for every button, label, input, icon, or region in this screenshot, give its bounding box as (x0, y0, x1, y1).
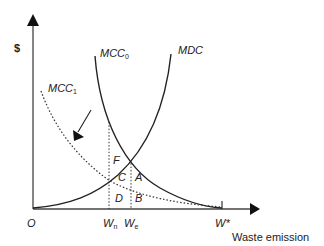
area-b-label: B (135, 193, 142, 204)
area-c-label: C (118, 172, 126, 183)
shift-arrow-line (78, 110, 91, 132)
mcc0-label: MCC0 (100, 48, 129, 60)
area-d-label: D (115, 193, 123, 204)
diagram-graphics (0, 0, 324, 246)
mdc-curve (33, 54, 171, 208)
y-axis-arrow-icon (27, 14, 39, 26)
y-axis-label: $ (14, 43, 20, 54)
area-f-label: F (113, 155, 120, 166)
mcc0-curve (95, 56, 222, 208)
mcc1-label: MCC1 (48, 83, 77, 95)
origin-label: O (27, 218, 36, 229)
mcc-mdc-diagram: $ MCC0 MDC MCC1 F C A D B O Wn We W* Was… (0, 0, 324, 246)
x-axis-arrow-icon (250, 203, 260, 215)
area-a-label: A (135, 172, 142, 183)
wstar-label: W* (215, 218, 230, 229)
mcc1-curve (41, 91, 222, 207)
mdc-label: MDC (178, 45, 203, 56)
we-label: We (124, 218, 138, 230)
wn-label: Wn (103, 218, 117, 230)
x-axis-label: Waste emission (232, 232, 309, 243)
